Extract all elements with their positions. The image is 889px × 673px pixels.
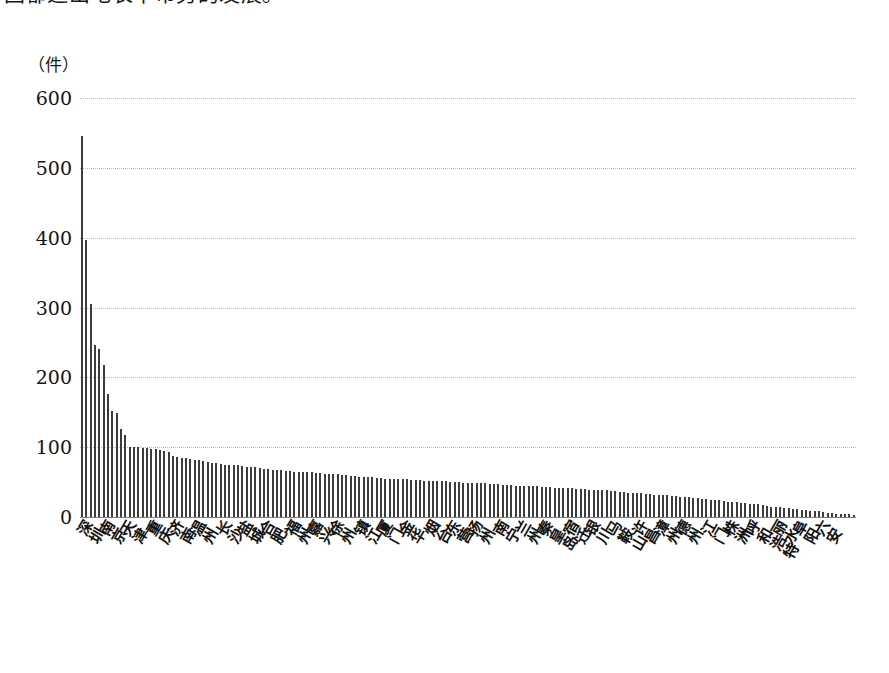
y-tick-label: 600	[26, 89, 72, 108]
y-tick-label: 100	[26, 438, 72, 457]
bar	[341, 475, 343, 517]
bar	[840, 514, 842, 517]
bar	[515, 486, 517, 517]
bar	[380, 478, 382, 517]
bar	[163, 451, 165, 517]
bar	[254, 467, 256, 517]
bar	[293, 472, 295, 517]
bar	[567, 488, 569, 517]
bar	[675, 496, 677, 517]
bar	[532, 486, 534, 517]
bar	[146, 448, 148, 517]
bar	[176, 457, 178, 517]
bar	[835, 514, 837, 517]
bar	[575, 489, 577, 517]
bar	[814, 511, 816, 517]
bar	[762, 505, 764, 517]
bar	[614, 491, 616, 517]
bar	[848, 514, 850, 517]
bar	[714, 500, 716, 517]
bar	[159, 450, 161, 517]
bar	[489, 484, 491, 517]
bar	[428, 481, 430, 517]
bar-chart-figure: （件） 6005004003002001000 深圳南京天津重庆济南温州长沙盐城…	[0, 22, 889, 673]
bar	[493, 484, 495, 517]
bar	[263, 469, 265, 517]
bar	[467, 483, 469, 517]
bar	[471, 483, 473, 517]
bar	[367, 477, 369, 517]
bar	[289, 471, 291, 517]
bar	[580, 489, 582, 517]
bar	[571, 488, 573, 517]
bar	[246, 467, 248, 517]
bar	[107, 394, 109, 517]
bar	[384, 479, 386, 517]
bar	[267, 469, 269, 517]
bar	[523, 486, 525, 517]
bar	[796, 509, 798, 517]
bar	[285, 471, 287, 517]
y-axis-tick-labels: 6005004003002001000	[20, 98, 72, 517]
bar	[462, 483, 464, 517]
bar	[124, 435, 126, 517]
bar	[619, 492, 621, 517]
bar	[697, 498, 699, 517]
bar	[436, 481, 438, 517]
bar	[554, 488, 556, 517]
bar	[233, 465, 235, 517]
bar	[558, 488, 560, 517]
bar	[679, 497, 681, 517]
bar	[783, 508, 785, 517]
bar	[419, 480, 421, 517]
bar	[528, 486, 530, 517]
bar	[632, 493, 634, 517]
bar	[155, 449, 157, 517]
bar	[766, 506, 768, 517]
bar	[228, 465, 230, 517]
bar	[710, 500, 712, 517]
bar	[827, 513, 829, 517]
bar	[324, 474, 326, 517]
bar	[701, 499, 703, 517]
bar	[727, 502, 729, 517]
bar	[250, 467, 252, 517]
y-tick-label: 400	[26, 229, 72, 248]
bar	[194, 460, 196, 517]
bar	[94, 345, 96, 517]
bar	[181, 458, 183, 517]
bar	[129, 447, 131, 517]
bar	[280, 470, 282, 517]
bar	[801, 510, 803, 517]
bar	[389, 479, 391, 517]
bar	[779, 507, 781, 517]
bar	[137, 447, 139, 517]
bar	[844, 514, 846, 517]
bar	[584, 489, 586, 517]
bar	[220, 464, 222, 517]
bar	[454, 482, 456, 517]
bar	[172, 456, 174, 517]
y-tick-label: 300	[26, 299, 72, 318]
bar	[272, 470, 274, 517]
bar	[510, 485, 512, 517]
bar	[645, 494, 647, 517]
bar	[636, 493, 638, 517]
bar	[809, 511, 811, 517]
bar	[103, 365, 105, 517]
bar	[445, 481, 447, 517]
bar	[406, 479, 408, 517]
bar	[623, 492, 625, 517]
bar	[476, 483, 478, 517]
bar	[593, 490, 595, 517]
bar	[610, 491, 612, 517]
bar	[484, 483, 486, 517]
bar	[749, 504, 751, 517]
bar	[376, 478, 378, 517]
bar	[792, 509, 794, 517]
bar	[757, 504, 759, 517]
bar	[506, 485, 508, 517]
bar	[744, 503, 746, 517]
bar	[627, 493, 629, 517]
bar	[718, 500, 720, 517]
